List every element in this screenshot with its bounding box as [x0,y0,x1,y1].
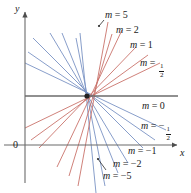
common-point-marker [84,93,89,98]
label-m-neg-one-half-eq: = − [148,120,164,131]
fraction-numerator: 1 [166,126,172,133]
label-m-neg-5: m = −5 [103,171,132,181]
label-m-5: m = 5 [105,10,128,20]
plot-canvas [0,0,191,193]
fraction-denominator: 2 [166,134,172,142]
label-m-0-value: = 0 [149,100,165,111]
label-m-1-value: = 1 [137,39,153,50]
label-m-one-half-eq: = [147,57,158,68]
y-axis-label: y [15,4,19,14]
label-m-neg-2: m = −2 [113,159,142,169]
label-m-2-value: = 2 [123,24,139,35]
x-axis-label: x [180,148,184,158]
label-m-neg-5-value: = −5 [110,170,131,181]
label-m-neg-1: m = −1 [128,146,157,156]
fraction-one-half: 12 [159,63,165,79]
leader-dot-m-5 [98,25,100,27]
label-m-neg-2-value: = −2 [120,158,141,169]
leader-dot-m-neg-5 [97,158,99,160]
label-m-0: m = 0 [142,101,165,111]
fraction-numerator: 1 [159,63,165,70]
origin-label: 0 [13,140,18,150]
label-m-2: m = 2 [116,25,139,35]
label-m-5-value: = 5 [112,9,128,20]
line-m-2 [57,30,122,167]
label-m-neg-one-half: m = −12 [141,121,171,142]
fraction-denominator: 2 [159,71,165,79]
line-m-3 [69,34,112,176]
fraction-neg-one-half: 12 [166,126,172,142]
label-m-1: m = 1 [130,40,153,50]
label-m-one-half: m = 12 [140,58,164,79]
line-family-figure: y x 0 m = 5 m = 2 m = 1 m = 12 m = 0 m =… [0,0,191,193]
leader-line-m-5 [99,20,104,26]
label-m-neg-1-value: = −1 [135,145,156,156]
